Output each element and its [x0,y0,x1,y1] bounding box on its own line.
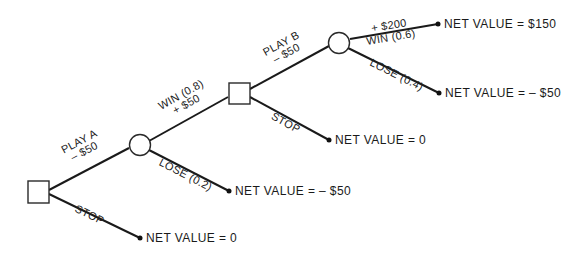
chance-node-1 [130,135,151,156]
outcome-stop-b: NET VALUE = 0 [335,133,426,147]
label-lose-0.4: LOSE (0.4) [368,56,425,93]
terminal-dot-win-b [436,22,441,27]
label-stop-a: STOP [73,202,106,226]
outcome-win-b: NET VALUE = $150 [444,17,556,31]
terminal-dot-stop-b [327,138,332,143]
terminal-dot-lose-b [437,91,442,96]
decision-tree-diagram: PLAY A – $50 STOP WIN (0.8) + $50 LOSE (… [0,0,569,258]
terminal-dot-lose-a [227,189,232,194]
terminal-dot-stop-a [138,236,143,241]
outcome-lose-b: NET VALUE = – $50 [445,86,561,100]
decision-node-b [229,83,250,104]
label-stop-b: STOP [269,110,302,135]
outcome-lose-a: NET VALUE = – $50 [235,184,351,198]
decision-node-a [28,181,49,203]
chance-node-2 [329,33,350,54]
label-lose-0.2: LOSE (0.2) [157,156,214,193]
outcome-stop-a: NET VALUE = 0 [146,231,237,245]
